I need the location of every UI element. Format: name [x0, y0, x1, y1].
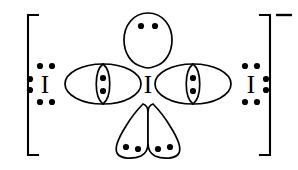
left-iodine-bottom-dot-2	[49, 99, 55, 105]
bottom-right-lobe	[148, 104, 180, 158]
right-iodine-right-dot-2	[263, 87, 269, 93]
left-bond-electron-1	[100, 75, 106, 81]
right-iodine-top-dot-2	[254, 63, 260, 69]
structure-canvas: I I I	[0, 0, 298, 170]
right-bond-orbital	[155, 64, 231, 104]
left-iodine-atom: I	[27, 63, 55, 105]
right-iodine-right-dot-1	[263, 76, 269, 82]
bottom-left-lobe-dot-2	[135, 146, 141, 152]
right-iodine-label: I	[247, 71, 255, 98]
right-bracket	[260, 15, 270, 155]
top-lobe-dot-2	[152, 23, 158, 29]
center-iodine-label: I	[144, 71, 152, 98]
bottom-left-lobe	[116, 104, 148, 158]
left-iodine-left-dot-1	[27, 76, 33, 82]
right-iodine-bottom-dot-1	[242, 99, 248, 105]
lewis-structure-diagram: I I I	[0, 0, 298, 170]
right-iodine-atom: I	[242, 63, 269, 105]
top-lobe	[124, 13, 172, 68]
right-iodine-bottom-dot-2	[254, 99, 260, 105]
left-bond-electron-2	[100, 88, 106, 94]
top-lobe-dot-1	[138, 23, 144, 29]
left-iodine-left-dot-2	[27, 87, 33, 93]
right-bond-electron-2	[190, 88, 196, 94]
left-bond-orbital	[65, 64, 141, 104]
bottom-right-lobe-dot-2	[167, 144, 173, 150]
left-iodine-bottom-dot-1	[37, 99, 43, 105]
bottom-left-lobe-dot-1	[123, 144, 129, 150]
right-iodine-top-dot-1	[242, 63, 248, 69]
center-iodine-atom: I	[144, 71, 152, 98]
left-iodine-top-dot-1	[37, 63, 43, 69]
left-iodine-top-dot-2	[49, 63, 55, 69]
left-iodine-label: I	[41, 71, 49, 98]
left-bracket	[28, 15, 38, 155]
bottom-right-lobe-dot-1	[155, 146, 161, 152]
right-bond-electron-1	[190, 75, 196, 81]
